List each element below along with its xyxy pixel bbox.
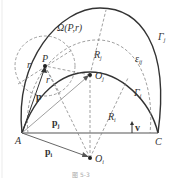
vector-pi-arrowhead	[82, 152, 89, 157]
r-lower-label: r	[46, 74, 50, 85]
diagram-figure: Ω(P,r) P r r p Oj Oi Rj Ri εij Γj Γi pj …	[0, 0, 180, 178]
omega-label: Ω(P,r)	[57, 22, 83, 34]
gamma-j-label: Γj	[157, 31, 166, 43]
point-c-label: C	[155, 136, 162, 147]
velocity-arrowhead	[130, 121, 134, 125]
r-upper-label: r	[27, 59, 31, 70]
point-oj-label: Oj	[95, 70, 104, 82]
point-oi-label: Oi	[95, 153, 104, 165]
vector-pi	[22, 133, 86, 156]
point-p-label: P	[41, 53, 48, 64]
vector-p-label: p	[36, 91, 42, 102]
radius-rj-line	[90, 10, 106, 75]
oj-p-line	[45, 66, 90, 75]
diagram-canvas: Ω(P,r) P r r p Oj Oi Rj Ri εij Γj Γi pj …	[0, 0, 180, 178]
velocity-label: v	[135, 122, 140, 133]
gamma-i-label: Γi	[133, 87, 142, 99]
vector-pi-label: pi	[45, 146, 53, 158]
epsilon-label: εij	[135, 53, 143, 65]
point-a-label: A	[14, 135, 22, 146]
point-oj-dot	[88, 73, 92, 77]
point-p-dot	[43, 64, 47, 68]
figure-caption: 图 5-3	[72, 171, 90, 178]
oi-p-line	[45, 66, 90, 158]
point-oi-dot	[88, 156, 92, 160]
rj-label: Rj	[93, 49, 102, 61]
vector-pj-label: pj	[52, 117, 60, 129]
ri-label: Ri	[107, 111, 116, 123]
